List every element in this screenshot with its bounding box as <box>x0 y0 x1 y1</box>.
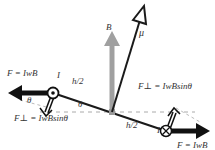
force-arrow-right-head <box>196 123 210 139</box>
label-current-left: I <box>56 70 61 80</box>
moment-arrow-mu <box>112 20 140 112</box>
label-force-right: F = IwB <box>176 140 208 150</box>
fperp-arrow-right-shaft2 <box>170 113 176 129</box>
label-half-height-right: h/2 <box>126 120 138 130</box>
label-force-left: F = IwB <box>6 68 38 78</box>
dashed-guide-left <box>20 100 50 108</box>
force-arrow-left-head <box>8 85 22 101</box>
label-fperp-left: F⊥ = IwBsinθ <box>13 113 69 123</box>
wire-current-out <box>48 88 59 99</box>
wire-current-in <box>161 126 172 137</box>
label-theta-center: θ <box>78 99 83 109</box>
label-moment-mu: μ <box>138 27 144 38</box>
label-fperp-right: F⊥ = IwBsinθ <box>137 81 193 91</box>
label-field-b: B <box>106 22 112 32</box>
label-theta-left: θ <box>27 95 32 105</box>
dashed-guide-right <box>176 108 200 122</box>
field-arrow-head <box>104 31 120 46</box>
label-half-height-left: h/2 <box>72 76 84 86</box>
torque-diagram: F = IwB I θ F⊥ = IwBsinθ h/2 θ B μ F⊥ = … <box>0 0 215 150</box>
moment-arrow-head <box>133 6 146 24</box>
